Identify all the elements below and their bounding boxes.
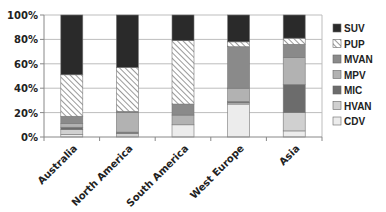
bar-segment-mvan <box>228 47 250 88</box>
bar-segment-suv <box>283 15 305 38</box>
bar-segment-pup <box>228 42 250 47</box>
bar-segment-mpv <box>172 115 194 125</box>
x-axis: AustraliaNorth AmericaSouth AmericaWest … <box>35 137 322 209</box>
legend-label: PUP <box>344 39 365 50</box>
bars <box>61 15 305 137</box>
bar-segment-mvan <box>172 104 194 115</box>
legend-label: MPV <box>344 70 366 81</box>
x-category-label: South America <box>124 143 190 209</box>
bar-segment-pup <box>283 38 305 44</box>
legend-label: MVAN <box>344 54 373 65</box>
x-category-label: West Europe <box>188 142 246 200</box>
bar-segment-mpv <box>228 88 250 101</box>
bar-segment-cdv <box>228 104 250 137</box>
legend-swatch-cdv <box>333 117 341 125</box>
legend: SUVPUPMVANMPVMICHVANCDV <box>333 23 373 127</box>
bar-segment-mpv <box>61 124 83 128</box>
bar-segment-mpv <box>116 113 138 133</box>
legend-label: SUV <box>344 23 365 34</box>
bar-segment-mvan <box>283 44 305 57</box>
bar-segment-cdv <box>283 131 305 137</box>
bar-segment-suv <box>172 15 194 41</box>
y-tick-label: 20% <box>14 108 38 119</box>
legend-swatch-mvan <box>333 55 341 63</box>
bar-segment-cdv <box>172 125 194 137</box>
bar-segment-mic <box>61 127 83 129</box>
legend-label: MIC <box>344 85 362 96</box>
bar-segment-hvan <box>61 130 83 135</box>
legend-swatch-mpv <box>333 71 341 79</box>
y-tick-label: 0% <box>21 132 38 143</box>
bar-segment-mic <box>283 85 305 113</box>
x-category-label: Australia <box>35 143 79 187</box>
x-category-label: Asia <box>277 143 302 168</box>
bar-segment-pup <box>116 67 138 111</box>
legend-label: CDV <box>344 116 365 127</box>
y-tick-label: 40% <box>14 83 38 94</box>
y-tick-label: 60% <box>14 59 38 70</box>
legend-swatch-pup <box>333 40 341 48</box>
legend-swatch-mic <box>333 86 341 94</box>
legend-swatch-hvan <box>333 102 341 110</box>
y-tick-label: 80% <box>14 34 38 45</box>
y-tick-label: 100% <box>7 10 38 21</box>
bar-segment-hvan <box>116 133 138 137</box>
legend-swatch-suv <box>333 24 341 32</box>
bar-segment-suv <box>116 15 138 67</box>
bar-segment-mvan <box>61 116 83 123</box>
bar-segment-pup <box>172 41 194 104</box>
bar-segment-mpv <box>283 58 305 85</box>
x-category-label: North America <box>69 143 134 208</box>
bar-segment-suv <box>61 15 83 75</box>
bar-segment-hvan <box>283 113 305 131</box>
bar-segment-suv <box>228 15 250 42</box>
bar-segment-pup <box>61 75 83 116</box>
y-axis: 0%20%40%60%80%100% <box>7 10 44 143</box>
legend-label: HVAN <box>344 101 372 112</box>
stacked-bar-chart: 0%20%40%60%80%100% AustraliaNorth Americ… <box>0 0 386 212</box>
